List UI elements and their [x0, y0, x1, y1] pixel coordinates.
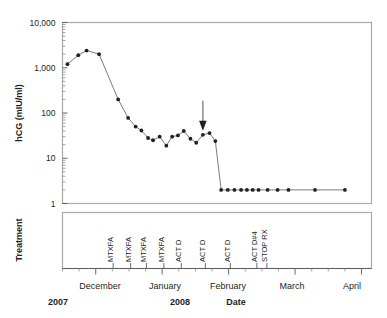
chart-canvas: 10,0001,000100101 hCG (mIU/ml) Treatment… [0, 0, 387, 318]
treatment-label: ACT D [174, 239, 183, 262]
data-point [239, 188, 243, 192]
x-axis-title: Date [226, 297, 246, 307]
data-point [151, 138, 155, 142]
data-point [257, 188, 261, 192]
treatment-event-ticks [113, 263, 267, 269]
month-label: February [210, 281, 247, 291]
treatment-label: ACT D [198, 239, 207, 262]
y-axis-ticks [63, 23, 68, 204]
treatment-event-labels: MTXFAMTXFAMTXFAMTXFAACT DACT DACT DACT D… [106, 229, 269, 262]
data-point [97, 52, 101, 56]
month-label: March [279, 281, 304, 291]
hcg-treatment-figure: 10,0001,000100101 hCG (mIU/ml) Treatment… [0, 0, 387, 318]
year-label: 2007 [48, 297, 68, 307]
treatment-label: ACT D [223, 239, 232, 262]
year-labels: 20072008 [48, 297, 190, 307]
treatment-label: MTXFA [157, 237, 166, 262]
data-point [245, 188, 249, 192]
data-point [233, 188, 237, 192]
data-point [164, 144, 168, 148]
data-point [134, 125, 138, 129]
data-point [213, 139, 217, 143]
y-tick-label: 10,000 [30, 18, 56, 28]
month-label: December [79, 281, 121, 291]
plot-frame [63, 23, 372, 204]
month-label: April [343, 281, 361, 291]
data-point [85, 49, 89, 53]
year-label: 2008 [170, 297, 190, 307]
treatment-label: MTXFA [139, 237, 148, 262]
data-point [66, 62, 70, 66]
data-point [189, 137, 193, 141]
data-point [201, 133, 205, 137]
y-axis-title: hCG (mIU/ml) [14, 84, 24, 142]
y-axis-tick-labels: 10,0001,000100101 [30, 18, 56, 209]
data-point [170, 135, 174, 139]
data-point [140, 129, 144, 133]
data-point [146, 136, 150, 140]
month-tick-labels: DecemberJanuaryFebruaryMarchApril [79, 281, 361, 291]
data-point [219, 188, 223, 192]
data-point [313, 188, 317, 192]
hcg-data-points [66, 49, 347, 192]
treatment-label: MTXFA [124, 237, 133, 262]
treatment-label: ACT D#4 [250, 231, 259, 262]
treatment-label: STOP RX [260, 229, 269, 262]
data-point [176, 133, 180, 137]
data-point [276, 188, 280, 192]
y-tick-label: 1 [51, 199, 56, 209]
data-point [287, 188, 291, 192]
y-tick-label: 100 [41, 108, 55, 118]
month-label: January [149, 281, 182, 291]
data-point [194, 141, 198, 145]
data-point [226, 188, 230, 192]
data-point [76, 53, 80, 57]
treatment-label: MTXFA [106, 237, 115, 262]
data-point [251, 188, 255, 192]
date-axis-ticks [63, 269, 362, 275]
data-point [116, 97, 120, 101]
treatment-panel-title: Treatment [14, 218, 24, 261]
data-point [126, 116, 130, 120]
data-point [182, 129, 186, 133]
y-tick-label: 10 [46, 153, 56, 163]
data-point [343, 188, 347, 192]
data-point [158, 135, 162, 139]
y-tick-label: 1,000 [34, 63, 56, 73]
data-point [266, 188, 270, 192]
hcg-series-line [67, 51, 344, 190]
data-point [208, 131, 212, 135]
annotation-arrow-icon [199, 101, 207, 131]
